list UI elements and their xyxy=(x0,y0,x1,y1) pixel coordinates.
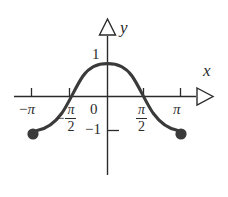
y-tick-label-one: 1 xyxy=(92,47,100,62)
fraction-denominator: 2 xyxy=(137,120,146,134)
y-tick-label-negative-one: −1 xyxy=(85,122,101,137)
x-tick-label-neg-pi: −π xyxy=(19,102,35,117)
fraction-pi-over-2: π 2 xyxy=(65,103,76,135)
x-tick-label-pi-over-2: π 2 xyxy=(136,103,147,135)
fraction-numerator: π xyxy=(137,103,146,117)
y-axis-label: y xyxy=(120,19,128,36)
fraction-pi-over-2: π 2 xyxy=(136,103,147,135)
x-tick-label-neg-pi-over-2: − π 2 xyxy=(56,103,76,135)
fraction-numerator: π xyxy=(66,103,75,117)
cosine-graph-figure: y x −π π − π 2 π 2 0 1 −1 xyxy=(0,0,228,197)
plot-canvas xyxy=(0,0,228,197)
fraction-denominator: 2 xyxy=(66,120,75,134)
x-axis-arrowhead-icon xyxy=(197,88,213,105)
x-tick-label-pi: π xyxy=(173,102,181,117)
endpoint-dot-left xyxy=(27,128,38,139)
y-axis-arrowhead-icon xyxy=(100,19,116,35)
pi-glyph: π xyxy=(173,101,181,117)
endpoint-dot-right xyxy=(175,128,186,139)
x-axis-label: x xyxy=(203,62,211,79)
pi-glyph: π xyxy=(27,101,35,117)
minus-glyph: − xyxy=(56,110,64,127)
origin-label: 0 xyxy=(90,102,98,117)
